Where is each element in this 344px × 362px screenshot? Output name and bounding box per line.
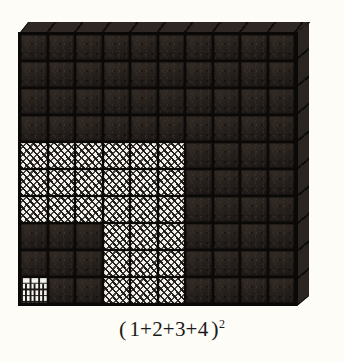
cube-cell xyxy=(159,62,185,87)
cube-cell xyxy=(186,197,212,222)
cube-cell xyxy=(186,143,212,168)
cube-cell xyxy=(186,35,212,60)
cube-cell xyxy=(76,62,102,87)
cube-cell xyxy=(159,116,185,141)
cube-cell xyxy=(269,116,295,141)
cube-cell xyxy=(214,278,240,303)
cube-cell xyxy=(76,143,102,168)
cube-cell xyxy=(49,62,75,87)
caption-close-paren: ) xyxy=(211,316,219,341)
cube-block-3d xyxy=(18,22,308,307)
cube-cell xyxy=(76,251,102,276)
cube-cell xyxy=(241,143,267,168)
cube-cell xyxy=(104,224,130,249)
cube-cell xyxy=(159,35,185,60)
cube-cell xyxy=(21,89,47,114)
cube-cell xyxy=(241,116,267,141)
cube-cell xyxy=(214,197,240,222)
cube-cell xyxy=(159,170,185,195)
cube-cell xyxy=(104,251,130,276)
cube-cell xyxy=(186,170,212,195)
cube-cell xyxy=(241,278,267,303)
block-right-bevel-face xyxy=(297,22,309,306)
cube-grid xyxy=(18,32,297,306)
cube-cell xyxy=(186,278,212,303)
cube-cell xyxy=(159,143,185,168)
cube-cell xyxy=(214,224,240,249)
caption-expression: 1+2+3+4 xyxy=(129,317,208,341)
cube-cell xyxy=(269,62,295,87)
cube-cell xyxy=(269,89,295,114)
cube-cell xyxy=(49,224,75,249)
cube-cell xyxy=(49,35,75,60)
cube-cell xyxy=(269,35,295,60)
cube-cell xyxy=(104,35,130,60)
cube-cell xyxy=(131,116,157,141)
cube-cell xyxy=(21,251,47,276)
cube-cell xyxy=(76,224,102,249)
cube-cell xyxy=(214,35,240,60)
caption-open-paren: ( xyxy=(119,316,127,341)
cube-cell xyxy=(49,251,75,276)
cube-cell xyxy=(241,251,267,276)
cube-cell xyxy=(21,143,47,168)
cube-cell xyxy=(214,170,240,195)
cube-cell xyxy=(269,278,295,303)
cube-cell xyxy=(21,170,47,195)
cube-cell xyxy=(131,278,157,303)
cube-cell xyxy=(241,35,267,60)
cube-cell xyxy=(21,197,47,222)
cube-cell xyxy=(76,89,102,114)
cube-cell xyxy=(49,278,75,303)
cube-cell xyxy=(131,62,157,87)
cube-cell xyxy=(21,116,47,141)
cube-cell xyxy=(269,143,295,168)
cube-cell xyxy=(21,35,47,60)
cube-cell xyxy=(76,35,102,60)
cube-cell xyxy=(131,89,157,114)
cube-cell xyxy=(214,116,240,141)
cube-cell xyxy=(186,62,212,87)
cube-cell xyxy=(159,197,185,222)
cube-cell xyxy=(131,170,157,195)
cube-cell xyxy=(186,251,212,276)
cube-cell xyxy=(269,224,295,249)
cube-cell xyxy=(131,251,157,276)
cube-cell xyxy=(214,251,240,276)
cube-cell xyxy=(214,89,240,114)
cube-cell xyxy=(186,116,212,141)
cube-cell xyxy=(49,170,75,195)
caption-exponent: 2 xyxy=(219,317,225,331)
cube-cell xyxy=(49,143,75,168)
cube-cell xyxy=(76,278,102,303)
cube-cell xyxy=(104,143,130,168)
cube-cell xyxy=(159,224,185,249)
cube-cell xyxy=(104,89,130,114)
cube-cell xyxy=(214,143,240,168)
cube-cell xyxy=(241,170,267,195)
cube-cell xyxy=(214,62,240,87)
cube-cell xyxy=(104,197,130,222)
cube-cell xyxy=(76,116,102,141)
cube-cell xyxy=(104,116,130,141)
cube-cell xyxy=(131,35,157,60)
cube-cell xyxy=(159,251,185,276)
cube-cell xyxy=(269,170,295,195)
cube-cell xyxy=(21,278,47,303)
cube-cell xyxy=(241,62,267,87)
cube-cell xyxy=(131,224,157,249)
cube-cell xyxy=(76,170,102,195)
cube-cell xyxy=(159,278,185,303)
cube-cell xyxy=(104,62,130,87)
cube-cell xyxy=(76,197,102,222)
cube-cell xyxy=(186,224,212,249)
figure-root: (1+2+3+4)2 xyxy=(0,0,344,362)
cube-cell xyxy=(49,116,75,141)
cube-cell xyxy=(49,197,75,222)
cube-cell xyxy=(241,197,267,222)
figure-caption: (1+2+3+4)2 xyxy=(0,316,344,342)
cube-cell xyxy=(131,197,157,222)
cube-cell xyxy=(159,89,185,114)
cube-cell xyxy=(21,224,47,249)
cube-cell xyxy=(241,224,267,249)
